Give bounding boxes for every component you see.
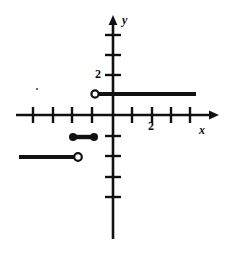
y-axis-label: y: [122, 14, 127, 26]
graph-figure: y x 2 2: [0, 0, 226, 268]
open-endpoint-upper-left: [91, 90, 98, 97]
coordinate-plane-svg: [0, 0, 226, 268]
x-tick-label-2: 2: [148, 120, 154, 132]
y-axis-arrowhead: [109, 15, 118, 25]
x-axis-label: x: [199, 124, 205, 136]
function-graph: [19, 90, 196, 160]
scan-artifact-speck: [36, 88, 38, 90]
segment-upper-ray: [91, 90, 196, 97]
axes-group: [16, 15, 219, 239]
closed-endpoint-middle-left: [69, 133, 77, 141]
segment-middle: [69, 133, 98, 141]
closed-endpoint-middle-right: [90, 133, 98, 141]
open-endpoint-lower-right: [74, 153, 82, 161]
y-tick-label-2: 2: [95, 68, 101, 80]
segment-lower: [19, 153, 82, 161]
x-axis-arrowhead: [209, 111, 219, 120]
